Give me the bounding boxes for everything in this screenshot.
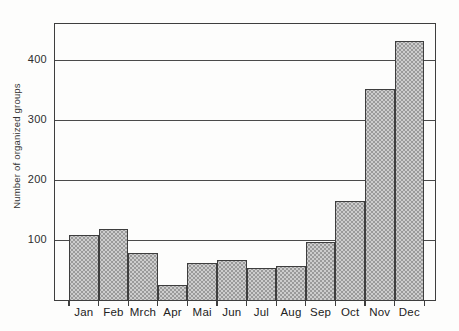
bar-oct bbox=[335, 201, 365, 300]
y-tick-label-100: 100 bbox=[0, 233, 47, 245]
bar-nov bbox=[365, 89, 395, 300]
bar-jul bbox=[247, 268, 277, 300]
bar-apr bbox=[158, 285, 188, 300]
x-axis-tick bbox=[335, 300, 336, 306]
gridline-400 bbox=[55, 60, 435, 61]
x-axis-tick bbox=[276, 300, 277, 306]
y-tick-label-200: 200 bbox=[0, 173, 47, 185]
x-label-nov: Nov bbox=[369, 306, 390, 318]
x-axis-tick bbox=[216, 300, 217, 306]
x-axis-tick bbox=[394, 300, 395, 306]
bar-aug bbox=[276, 266, 306, 300]
x-label-oct: Oct bbox=[341, 306, 360, 318]
bar-sep bbox=[306, 242, 336, 300]
bar-feb bbox=[99, 229, 129, 300]
x-label-dec: Dec bbox=[399, 306, 420, 318]
x-axis-tick bbox=[246, 300, 247, 306]
y-axis-title: Number of organized groups bbox=[11, 83, 22, 209]
x-label-jan: Jan bbox=[74, 306, 93, 318]
bar-jan bbox=[69, 235, 99, 300]
x-label-jun: Jun bbox=[222, 306, 241, 318]
x-axis-tick bbox=[68, 300, 69, 306]
x-axis-tick bbox=[187, 300, 188, 306]
x-axis-tick bbox=[364, 300, 365, 306]
plot-area bbox=[54, 23, 436, 301]
x-label-aug: Aug bbox=[280, 306, 301, 318]
bar-dec bbox=[395, 41, 425, 300]
x-label-apr: Apr bbox=[163, 306, 182, 318]
x-label-mai: Mai bbox=[193, 306, 212, 318]
bar-chart-figure: Number of organized groups 100200300400 … bbox=[0, 0, 459, 331]
x-label-jul: Jul bbox=[254, 306, 269, 318]
x-label-feb: Feb bbox=[103, 306, 123, 318]
bar-mrch bbox=[128, 253, 158, 300]
x-axis-tick bbox=[424, 300, 425, 306]
bar-jun bbox=[217, 260, 247, 300]
x-axis-tick bbox=[128, 300, 129, 306]
x-axis-tick bbox=[305, 300, 306, 306]
x-axis-tick bbox=[98, 300, 99, 306]
x-label-mrch: Mrch bbox=[130, 306, 156, 318]
y-tick-label-400: 400 bbox=[0, 53, 47, 65]
bar-mai bbox=[187, 263, 217, 300]
y-tick-label-300: 300 bbox=[0, 113, 47, 125]
x-label-sep: Sep bbox=[310, 306, 331, 318]
x-axis-tick bbox=[157, 300, 158, 306]
